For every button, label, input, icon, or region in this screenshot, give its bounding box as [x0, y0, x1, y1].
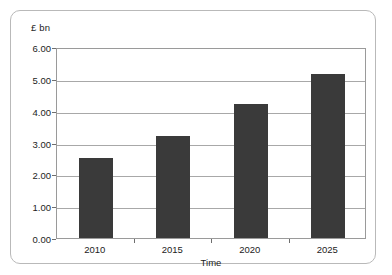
y-axis-tick-label: 2.00: [33, 170, 52, 181]
y-axis-tick-label: 0.00: [33, 234, 52, 245]
bar-slot: [135, 49, 213, 238]
bar[interactable]: [234, 104, 268, 238]
y-axis-tick-mark: [52, 175, 56, 176]
plot-area: [56, 48, 366, 239]
x-axis-tick-mark: [289, 239, 290, 243]
y-axis-tick-mark: [52, 144, 56, 145]
y-axis-tick-label: 4.00: [33, 106, 52, 117]
bar[interactable]: [311, 74, 345, 238]
y-axis-tick-mark: [52, 207, 56, 208]
x-axis-tick-mark: [211, 239, 212, 243]
y-axis-tick-label: 5.00: [33, 74, 52, 85]
plot-wrapper: 0.001.002.003.004.005.006.00 20102015202…: [56, 48, 366, 239]
chart-frame: £ bn 0.001.002.003.004.005.006.00 201020…: [10, 10, 376, 264]
x-axis-tick-mark: [134, 239, 135, 243]
y-axis-tick-mark: [52, 112, 56, 113]
bar-slot: [290, 49, 367, 238]
y-axis-tick-label: 3.00: [33, 138, 52, 149]
y-axis-tick-mark: [52, 80, 56, 81]
y-axis-tick-label: 6.00: [33, 43, 52, 54]
bar[interactable]: [79, 158, 113, 238]
bars-layer: [57, 49, 365, 238]
y-axis-tick-label: 1.00: [33, 202, 52, 213]
x-axis-title: Time: [56, 257, 366, 268]
bar[interactable]: [156, 136, 190, 238]
y-axis-unit-label: £ bn: [31, 22, 50, 33]
x-axis-tick-label: 2015: [162, 244, 183, 255]
y-axis-tick-mark: [52, 48, 56, 49]
x-axis-tick-label: 2025: [317, 244, 338, 255]
bar-slot: [212, 49, 290, 238]
bar-slot: [57, 49, 135, 238]
x-axis-tick-label: 2010: [84, 244, 105, 255]
x-axis-tick-label: 2020: [239, 244, 260, 255]
y-axis-tick-mark: [52, 239, 56, 240]
